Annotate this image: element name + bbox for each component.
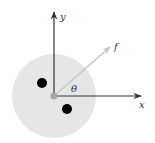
origin-pivot [51, 93, 58, 100]
particle-2 [62, 104, 72, 114]
particle-1 [37, 78, 47, 88]
force-label: f [113, 41, 120, 52]
disk-force-diagram: y x f θ [0, 0, 155, 143]
angle-theta-label: θ [71, 83, 77, 94]
y-axis-label: y [59, 11, 66, 22]
x-axis-label: x [139, 99, 145, 110]
